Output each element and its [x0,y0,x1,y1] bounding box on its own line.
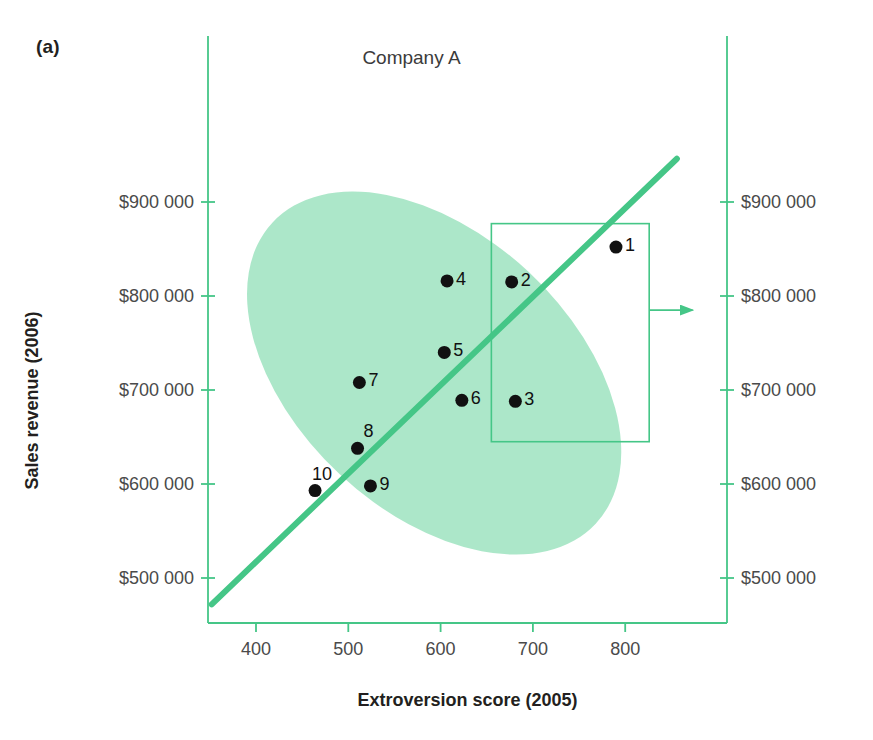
x-tick-label: 500 [333,639,363,660]
data-point [609,241,622,254]
data-point [364,479,377,492]
data-point [309,484,322,497]
data-point-label: 4 [456,269,466,290]
y-tick-label-left: $700 000 [119,380,194,401]
data-point [438,346,451,359]
data-point [455,394,468,407]
plot-area [0,0,873,740]
y-tick-label-right: $500 000 [741,568,816,589]
y-tick-label-left: $600 000 [119,474,194,495]
y-tick-label-left: $500 000 [119,568,194,589]
y-tick-label-left: $800 000 [119,286,194,307]
y-tick-label-left: $900 000 [119,192,194,213]
data-point-label: 10 [312,464,332,485]
y-tick-label-right: $900 000 [741,192,816,213]
y-tick-label-right: $600 000 [741,474,816,495]
x-tick-label: 700 [518,639,548,660]
confidence-ellipse [178,121,690,625]
scatter-figure: (a) Company A Sales revenue (2006) Extro… [0,0,873,740]
data-point [353,376,366,389]
data-point [441,274,454,287]
data-point-label: 9 [379,474,389,495]
data-point-label: 6 [471,388,481,409]
data-point-label: 2 [521,270,531,291]
data-point [351,442,364,455]
x-tick-label: 600 [426,639,456,660]
x-tick-label: 400 [241,639,271,660]
data-point-label: 8 [364,421,374,442]
data-point-label: 3 [524,389,534,410]
data-point-label: 7 [368,370,378,391]
y-tick-label-right: $800 000 [741,286,816,307]
data-point-label: 1 [625,235,635,256]
x-tick-label: 800 [610,639,640,660]
data-point-label: 5 [453,340,463,361]
data-point [509,395,522,408]
y-tick-label-right: $700 000 [741,380,816,401]
data-point [505,275,518,288]
